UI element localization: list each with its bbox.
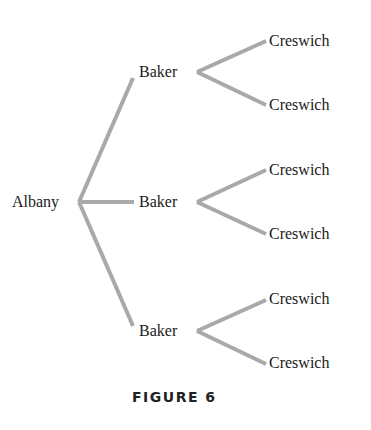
node-albany: Albany [12, 193, 59, 211]
node-creswich-1-1: Creswich [269, 32, 329, 50]
edge-albany-baker-1 [79, 78, 133, 202]
edge-baker-1-creswich-2 [197, 72, 266, 105]
edge-baker-2-creswich-2 [197, 202, 266, 234]
edge-baker-1-creswich-1 [197, 41, 266, 72]
node-creswich-2-1: Creswich [269, 161, 329, 179]
node-baker-3: Baker [139, 322, 177, 340]
node-creswich-3-2: Creswich [269, 354, 329, 372]
node-baker-2: Baker [139, 193, 177, 211]
edge-baker-3-creswich-1 [197, 300, 266, 331]
node-creswich-1-2: Creswich [269, 96, 329, 114]
node-creswich-3-1: Creswich [269, 290, 329, 308]
edge-albany-baker-3 [79, 202, 133, 326]
edge-baker-2-creswich-1 [197, 170, 266, 202]
figure-caption: FIGURE 6 [132, 389, 217, 405]
node-baker-1: Baker [139, 63, 177, 81]
node-creswich-2-2: Creswich [269, 225, 329, 243]
edge-baker-3-creswich-2 [197, 331, 266, 364]
